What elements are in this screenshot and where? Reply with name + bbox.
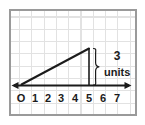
height-brace-icon [94,49,100,86]
axis-tick-label-6: 6 [97,92,109,104]
axis-tick-label-1: 1 [29,92,41,104]
brace-units-label: units [104,66,130,79]
right-triangle [22,48,90,86]
axis-tick-label-origin: O [15,92,27,104]
axis-tick-label-2: 2 [42,92,54,104]
axis-tick-label-3: 3 [55,92,67,104]
triangle-hypotenuse [22,49,90,85]
axis-tick-label-4: 4 [69,92,81,104]
brace-value-label: 3 [110,50,124,63]
x-axis-right-arrow-icon [125,82,132,89]
axis-tick-label-7: 7 [111,92,123,104]
x-axis [12,82,132,89]
triangle-grid-figure: O 1 2 3 4 5 6 7 3 units [0,0,145,125]
x-axis-left-arrow-icon [12,82,19,89]
axis-tick-label-5: 5 [83,92,95,104]
